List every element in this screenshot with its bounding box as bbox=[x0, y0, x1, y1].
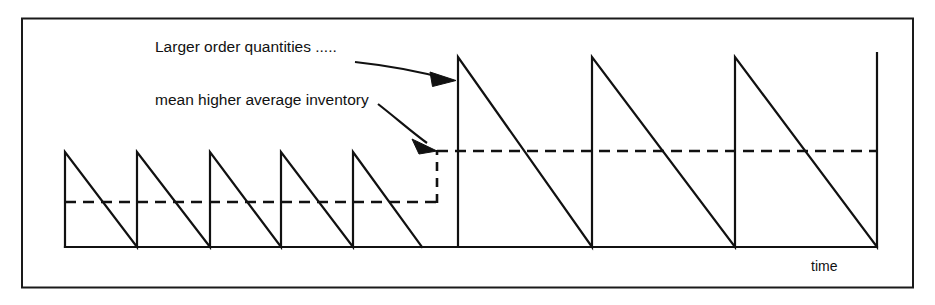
small-order-sawtooth-series bbox=[65, 152, 422, 247]
arrow-to-large-order-peak bbox=[355, 62, 456, 87]
inventory-sawtooth-figure: Larger order quantities ..... mean highe… bbox=[0, 0, 935, 305]
arrow-head bbox=[430, 72, 456, 87]
arrow-to-average-inventory-step bbox=[378, 104, 437, 154]
annotation-larger-order-quantities: Larger order quantities ..... bbox=[155, 38, 337, 55]
arrow-shaft bbox=[378, 104, 427, 143]
large-order-sawtooth-series bbox=[458, 53, 877, 247]
annotation-mean-higher-average-inventory: mean higher average inventory bbox=[155, 91, 369, 108]
x-axis-label: time bbox=[811, 258, 838, 274]
average-inventory-levels bbox=[65, 150, 877, 203]
small-order-sawtooth-path bbox=[65, 152, 422, 247]
large-order-sawtooth-path bbox=[458, 53, 877, 247]
inventory-sawtooth-chart: Larger order quantities ..... mean highe… bbox=[0, 0, 935, 305]
